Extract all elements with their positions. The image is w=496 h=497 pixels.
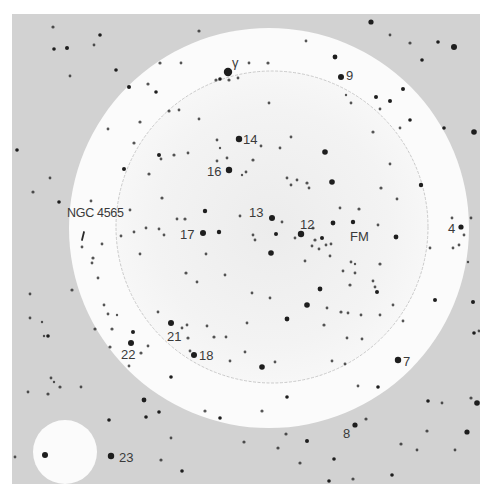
star-icon — [31, 190, 34, 193]
star-icon — [189, 350, 192, 353]
star-icon — [206, 325, 209, 328]
star-icon — [46, 334, 50, 338]
star-icon — [196, 281, 199, 284]
star-icon — [350, 261, 353, 264]
star-label-fm: FM — [350, 229, 369, 244]
star-icon — [392, 304, 395, 307]
star-icon — [138, 120, 141, 123]
star-icon — [180, 62, 183, 65]
star-icon — [339, 207, 342, 210]
star-icon — [178, 109, 181, 112]
star-icon — [128, 365, 131, 368]
star-icon — [442, 126, 446, 130]
star-icon — [469, 396, 472, 399]
star-icon — [142, 398, 147, 403]
star-icon — [57, 200, 61, 204]
star-icon — [375, 290, 379, 294]
star-icon — [186, 324, 189, 327]
star-icon — [464, 429, 469, 434]
star-icon — [389, 34, 392, 37]
star-icon — [170, 437, 173, 440]
star-icon — [351, 477, 354, 480]
star-icon — [346, 337, 349, 340]
star-9-icon — [338, 74, 344, 80]
star-icon — [345, 94, 347, 96]
star-icon — [399, 442, 402, 445]
star-icon — [451, 44, 457, 50]
star-icon — [332, 457, 336, 461]
star-icon — [285, 317, 290, 322]
star-icon — [219, 147, 221, 149]
star-icon — [160, 196, 163, 199]
star-icon — [186, 336, 189, 339]
star-icon — [425, 429, 428, 432]
star-label-8: 8 — [343, 426, 350, 441]
star-icon — [93, 44, 96, 47]
star-icon — [329, 179, 335, 185]
star-icon — [304, 260, 307, 263]
star-icon — [313, 238, 316, 241]
star-icon — [357, 207, 360, 210]
star-21-icon — [168, 320, 174, 326]
star-icon — [159, 458, 162, 461]
star-icon — [242, 440, 245, 443]
star-icon — [354, 272, 357, 275]
star-icon — [29, 317, 32, 320]
star-icon — [325, 244, 328, 247]
star-icon — [274, 361, 277, 364]
star-icon — [203, 409, 206, 412]
star-icon — [354, 263, 356, 265]
star-icon — [451, 217, 454, 220]
star-icon — [245, 171, 248, 174]
star-icon — [330, 243, 333, 246]
star-icon — [318, 248, 321, 251]
star-icon — [471, 300, 475, 304]
star-icon — [172, 153, 175, 156]
star-icon — [205, 253, 208, 256]
star-icon — [27, 391, 30, 394]
star-icon — [320, 236, 324, 240]
star-label-21: 21 — [167, 329, 181, 344]
star-icon — [377, 224, 380, 227]
star-icon — [268, 250, 274, 256]
star-icon — [65, 46, 69, 50]
inner-field-of-view — [116, 71, 428, 383]
star-icon — [396, 198, 399, 201]
star-icon — [408, 41, 411, 44]
star-icon — [107, 418, 111, 422]
star-icon — [467, 261, 469, 263]
star-icon — [342, 270, 345, 273]
star-icon — [218, 416, 222, 420]
star-icon — [116, 314, 118, 316]
star-icon — [472, 331, 476, 335]
star-icon — [187, 152, 190, 155]
star-label-14: 14 — [243, 132, 257, 147]
star-8-icon — [352, 422, 357, 427]
star-icon — [318, 287, 323, 292]
star-fm-icon — [351, 220, 355, 224]
star-icon — [157, 153, 161, 157]
star-icon — [108, 345, 111, 348]
star-icon — [167, 109, 170, 112]
star-icon — [441, 402, 444, 405]
star-label-4: 4 — [448, 221, 455, 236]
star-icon — [290, 136, 293, 139]
star-label-17: 17 — [180, 227, 194, 242]
star-icon — [139, 253, 142, 256]
star-icon — [463, 234, 466, 237]
star-icon — [326, 307, 329, 310]
star-icon — [81, 246, 84, 249]
star-7-icon — [395, 357, 401, 363]
star-icon — [339, 310, 342, 313]
star-icon — [163, 234, 166, 237]
star-icon — [145, 227, 148, 230]
star-label-23: 23 — [119, 450, 133, 465]
ngc-4565-label: NGC 4565 — [67, 206, 124, 220]
star-label-gamma: γ — [232, 55, 239, 70]
star-gamma-icon — [224, 68, 232, 76]
star-label-18: 18 — [199, 348, 213, 363]
star-icon — [296, 179, 299, 182]
star-icon — [129, 209, 132, 212]
star-icon — [379, 314, 382, 317]
star-icon — [331, 360, 334, 363]
